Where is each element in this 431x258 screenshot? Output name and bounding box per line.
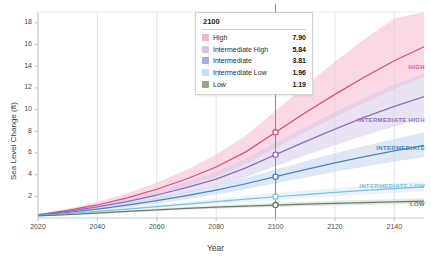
legend-swatch-icon <box>202 81 209 88</box>
x-tick-label: 2040 <box>77 223 117 230</box>
x-tick-label: 2140 <box>374 223 414 230</box>
y-tick-label: 12 <box>10 83 32 90</box>
legend-label: Low <box>213 81 284 88</box>
legend-label: High <box>213 34 284 41</box>
y-axis-title: Sea Level Change (ft) <box>9 102 18 180</box>
tooltip-row: High7.90 <box>202 32 306 44</box>
legend-value: 1.96 <box>284 69 306 76</box>
series-label-intermediate-low: INTERMEDIATE LOW <box>359 183 425 189</box>
y-tick-label: 4 <box>10 170 32 177</box>
legend-value: 7.90 <box>284 34 306 41</box>
y-tick-label: 16 <box>10 40 32 47</box>
y-tick-label: 2 <box>10 192 32 199</box>
y-tick-label: 14 <box>10 62 32 69</box>
sea-level-chart: Sea Level Change (ft) Year 2468101214161… <box>0 0 431 258</box>
series-label-high: HIGH <box>409 64 425 70</box>
legend-value: 1.19 <box>284 81 306 88</box>
y-tick-label: 10 <box>10 105 32 112</box>
x-tick-label: 2120 <box>315 223 355 230</box>
x-tick-label: 2080 <box>196 223 236 230</box>
y-tick-label: 18 <box>10 18 32 25</box>
tooltip-year: 2100 <box>202 16 306 30</box>
legend-swatch-icon <box>202 69 209 76</box>
series-label-low: LOW <box>410 201 425 207</box>
y-tick-label: 8 <box>10 127 32 134</box>
x-tick-label: 2100 <box>256 223 296 230</box>
x-tick-label: 2020 <box>18 223 58 230</box>
legend-swatch-icon <box>202 57 209 64</box>
legend-value: 3.81 <box>284 57 306 64</box>
tooltip-row: Intermediate3.81 <box>202 55 306 67</box>
legend-value: 5.84 <box>284 46 306 53</box>
tooltip-row: Low1.19 <box>202 78 306 90</box>
x-axis-title: Year <box>0 243 431 253</box>
hover-tooltip[interactable]: 2100 High7.90Intermediate High5.84Interm… <box>195 12 313 95</box>
legend-swatch-icon <box>202 46 209 53</box>
tooltip-rows: High7.90Intermediate High5.84Intermediat… <box>202 32 306 90</box>
tooltip-row: Intermediate High5.84 <box>202 44 306 56</box>
legend-label: Intermediate High <box>213 46 284 53</box>
series-label-intermediate: INTERMEDIATE <box>376 145 425 151</box>
tooltip-row: Intermediate Low1.96 <box>202 67 306 79</box>
y-tick-label: 6 <box>10 148 32 155</box>
x-tick-label: 2060 <box>137 223 177 230</box>
series-label-intermediate-high: INTERMEDIATE HIGH <box>358 117 425 123</box>
legend-label: Intermediate <box>213 57 284 64</box>
legend-swatch-icon <box>202 34 209 41</box>
legend-label: Intermediate Low <box>213 69 284 76</box>
